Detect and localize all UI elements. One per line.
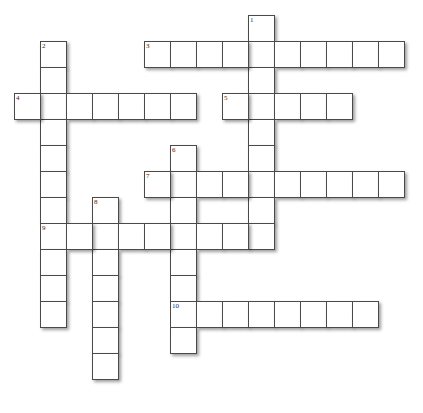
crossword-cell[interactable] bbox=[196, 41, 223, 68]
crossword-cell[interactable] bbox=[222, 171, 249, 198]
crossword-cell[interactable] bbox=[92, 249, 119, 276]
crossword-cell[interactable] bbox=[92, 327, 119, 354]
crossword-cell[interactable] bbox=[92, 275, 119, 302]
crossword-cell[interactable] bbox=[248, 41, 275, 68]
crossword-cell[interactable] bbox=[196, 171, 223, 198]
crossword-cell[interactable] bbox=[40, 223, 67, 250]
crossword-cell[interactable] bbox=[66, 93, 93, 120]
crossword-cell[interactable] bbox=[300, 41, 327, 68]
crossword-cell[interactable] bbox=[118, 223, 145, 250]
crossword-cell[interactable] bbox=[326, 171, 353, 198]
crossword-cell[interactable] bbox=[40, 119, 67, 146]
crossword-cell[interactable] bbox=[248, 223, 275, 250]
crossword-cell[interactable] bbox=[378, 41, 405, 68]
crossword-cell[interactable] bbox=[274, 171, 301, 198]
crossword-cell[interactable] bbox=[248, 119, 275, 146]
crossword-cell[interactable] bbox=[222, 41, 249, 68]
crossword-cell[interactable] bbox=[274, 93, 301, 120]
crossword-cell[interactable] bbox=[300, 171, 327, 198]
crossword-cell[interactable] bbox=[92, 197, 119, 224]
crossword-cell[interactable] bbox=[248, 145, 275, 172]
crossword-cell[interactable] bbox=[40, 301, 67, 328]
crossword-cell[interactable] bbox=[248, 67, 275, 94]
crossword-cell[interactable] bbox=[170, 93, 197, 120]
crossword-cell[interactable] bbox=[170, 223, 197, 250]
crossword-cell[interactable] bbox=[144, 41, 171, 68]
crossword-cell[interactable] bbox=[196, 223, 223, 250]
crossword-cell[interactable] bbox=[326, 93, 353, 120]
crossword-cell[interactable] bbox=[352, 41, 379, 68]
crossword-cell[interactable] bbox=[170, 327, 197, 354]
crossword-cell[interactable] bbox=[248, 15, 275, 42]
crossword-cell[interactable] bbox=[170, 301, 197, 328]
crossword-cell[interactable] bbox=[248, 301, 275, 328]
crossword-cell[interactable] bbox=[144, 171, 171, 198]
crossword-cell[interactable] bbox=[170, 275, 197, 302]
crossword-cell[interactable] bbox=[40, 275, 67, 302]
crossword-cell[interactable] bbox=[40, 145, 67, 172]
crossword-cell[interactable] bbox=[40, 41, 67, 68]
crossword-cell[interactable] bbox=[92, 93, 119, 120]
crossword-cell[interactable] bbox=[66, 223, 93, 250]
crossword-cell[interactable] bbox=[248, 197, 275, 224]
crossword-cell[interactable] bbox=[222, 93, 249, 120]
crossword-cell[interactable] bbox=[170, 145, 197, 172]
crossword-cell[interactable] bbox=[326, 301, 353, 328]
crossword-cell[interactable] bbox=[300, 301, 327, 328]
crossword-cell[interactable] bbox=[92, 353, 119, 380]
crossword-cell[interactable] bbox=[92, 301, 119, 328]
crossword-cell[interactable] bbox=[92, 223, 119, 250]
crossword-cell[interactable] bbox=[170, 249, 197, 276]
crossword-cell[interactable] bbox=[326, 41, 353, 68]
crossword-cell[interactable] bbox=[40, 93, 67, 120]
crossword-cell[interactable] bbox=[144, 223, 171, 250]
crossword-cell[interactable] bbox=[274, 301, 301, 328]
crossword-cell[interactable] bbox=[40, 67, 67, 94]
crossword-cell[interactable] bbox=[14, 93, 41, 120]
crossword-cell[interactable] bbox=[222, 223, 249, 250]
crossword-cell[interactable] bbox=[170, 171, 197, 198]
crossword-cell[interactable] bbox=[196, 301, 223, 328]
crossword-cell[interactable] bbox=[40, 249, 67, 276]
crossword-cell[interactable] bbox=[170, 197, 197, 224]
crossword-cell[interactable] bbox=[352, 171, 379, 198]
crossword-cell[interactable] bbox=[40, 197, 67, 224]
crossword-cell[interactable] bbox=[40, 171, 67, 198]
crossword-cell[interactable] bbox=[118, 93, 145, 120]
crossword-cell[interactable] bbox=[170, 41, 197, 68]
crossword-cell[interactable] bbox=[274, 41, 301, 68]
crossword-cell[interactable] bbox=[222, 301, 249, 328]
crossword-cell[interactable] bbox=[248, 93, 275, 120]
crossword-cell[interactable] bbox=[144, 93, 171, 120]
crossword-cell[interactable] bbox=[300, 93, 327, 120]
crossword-cell[interactable] bbox=[248, 171, 275, 198]
crossword-cell[interactable] bbox=[352, 301, 379, 328]
crossword-puzzle: 12345678910 bbox=[0, 0, 423, 413]
crossword-grid[interactable]: 12345678910 bbox=[0, 0, 423, 413]
crossword-cell[interactable] bbox=[378, 171, 405, 198]
